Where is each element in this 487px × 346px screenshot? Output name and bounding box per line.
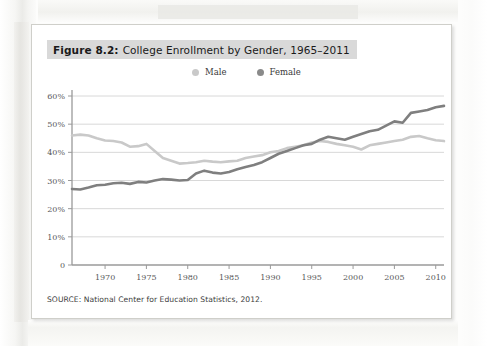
figure-source-note: SOURCE: National Center for Education St…	[47, 295, 262, 304]
x-axis-tick-label: 1975	[136, 273, 156, 282]
y-axis-tick-label: 50%	[47, 120, 65, 129]
scan-artifact-right	[461, 0, 487, 346]
x-axis-tick-label: 1995	[302, 273, 322, 282]
x-axis-tick-label: 2000	[343, 273, 363, 282]
x-axis: 197019751980198519901995200020052010	[72, 265, 446, 282]
y-axis-tick-label: 10%	[47, 233, 65, 242]
x-axis-tick-label: 1985	[219, 273, 239, 282]
data-series	[72, 106, 444, 190]
chart-plot-area: 010%20%30%40%50%60% 19701975198019851990…	[32, 25, 453, 320]
figure-panel: Figure 8.2: College Enrollment by Gender…	[31, 24, 452, 319]
y-axis-tick-label: 40%	[47, 148, 65, 157]
x-axis-tick-label: 1970	[95, 273, 115, 282]
line-chart-svg: 010%20%30%40%50%60% 19701975198019851990…	[32, 25, 453, 320]
y-axis-tick-label: 60%	[47, 92, 65, 101]
grid-lines	[72, 96, 444, 237]
x-axis-tick-label: 1980	[178, 273, 198, 282]
series-line-female	[72, 106, 444, 190]
y-axis-tick-label: 0	[60, 261, 65, 270]
scan-artifact-bottom	[28, 320, 458, 346]
y-axis-tick-label: 30%	[47, 177, 65, 186]
series-line-male	[72, 135, 444, 164]
x-axis-tick-label: 1990	[260, 273, 280, 282]
x-axis-tick-label: 2005	[384, 273, 404, 282]
scan-artifact-top	[38, 0, 458, 22]
x-axis-tick-label: 2010	[426, 273, 446, 282]
y-axis-tick-label: 20%	[47, 205, 65, 214]
y-axis: 010%20%30%40%50%60%	[47, 90, 72, 270]
